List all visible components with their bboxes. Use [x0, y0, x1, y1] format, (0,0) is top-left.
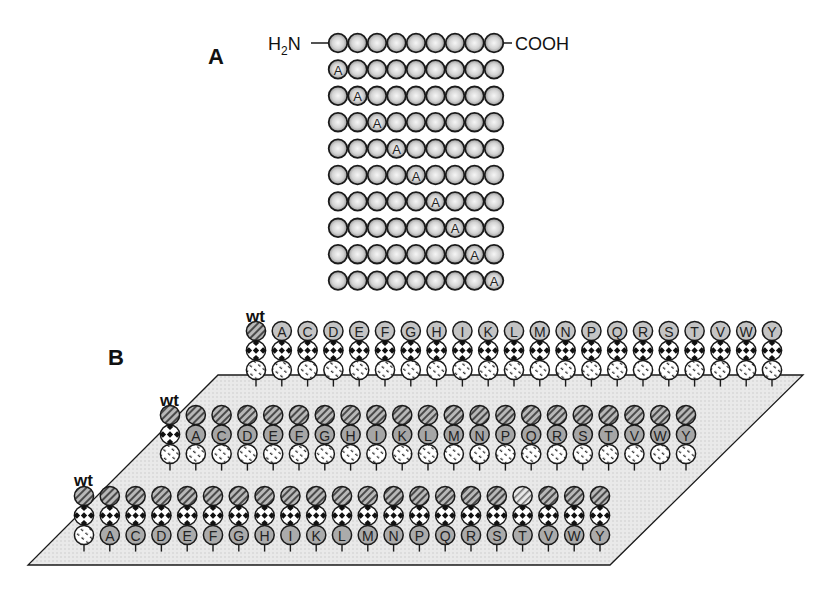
amino-acid-letter: L — [338, 528, 346, 544]
alanine-scan-peptide: A — [329, 192, 504, 211]
residue-bead — [485, 166, 504, 185]
peptide-G: G — [401, 321, 422, 386]
residue-bead — [329, 87, 348, 106]
c-terminus-label: COOH — [515, 34, 569, 54]
hatched-bead — [341, 405, 360, 424]
peptide-C: C — [212, 405, 231, 470]
hatched-bead — [461, 486, 480, 505]
hatched-bead — [246, 321, 265, 340]
amino-acid-letter: L — [424, 428, 432, 444]
residue-bead — [368, 245, 387, 264]
sparse-hatched-bead — [264, 444, 283, 463]
amino-acid-letter: D — [242, 428, 252, 444]
sparse-hatched-bead — [74, 525, 93, 544]
peptide-K: K — [306, 486, 327, 551]
residue-bead — [446, 34, 465, 53]
peptide-I: I — [367, 405, 386, 470]
hatched-bead — [418, 405, 437, 424]
residue-bead — [407, 60, 426, 79]
amino-acid-letter: G — [405, 324, 416, 340]
residue-bead — [465, 60, 484, 79]
peptide-T: T — [599, 405, 618, 470]
hatched-bead — [384, 486, 403, 505]
sparse-hatched-bead — [341, 444, 360, 463]
alanine-letter: A — [451, 221, 460, 236]
amino-acid-letter: E — [183, 528, 192, 544]
residue-bead — [426, 87, 445, 106]
amino-acid-letter: K — [484, 324, 494, 340]
peptide-T: T — [512, 486, 533, 551]
sparse-hatched-bead — [444, 444, 463, 463]
residue-bead — [348, 245, 367, 264]
residue-bead — [387, 271, 406, 290]
peptide-R: R — [633, 321, 654, 386]
alanine-scan-peptide: A — [329, 139, 504, 158]
residue-bead — [348, 34, 367, 53]
sparse-hatched-bead — [401, 360, 420, 379]
peptide-N: N — [383, 486, 404, 551]
residue-bead — [348, 219, 367, 238]
hatched-bead — [444, 405, 463, 424]
sparse-hatched-bead — [633, 360, 652, 379]
hatched-bead — [573, 405, 592, 424]
residue-bead — [426, 34, 445, 53]
peptide-F: F — [203, 486, 224, 551]
sparse-hatched-bead — [272, 360, 291, 379]
residue-bead — [368, 60, 387, 79]
residue-bead — [368, 271, 387, 290]
peptide-E: E — [177, 486, 198, 551]
peptide-C: C — [297, 321, 318, 386]
peptide-K: K — [393, 405, 412, 470]
sparse-hatched-bead — [393, 444, 412, 463]
panel-b-label: B — [108, 345, 124, 370]
residue-bead — [368, 87, 387, 106]
peptide-A: A — [186, 405, 205, 470]
sparse-hatched-bead — [556, 360, 575, 379]
amino-acid-letter: V — [630, 428, 640, 444]
amino-acid-letter: E — [269, 428, 278, 444]
residue-bead — [485, 113, 504, 132]
hatched-bead — [436, 486, 455, 505]
hatched-bead — [487, 486, 506, 505]
hatched-bead — [264, 405, 283, 424]
amino-acid-letter: H — [346, 428, 356, 444]
amino-acid-letter: A — [277, 324, 287, 340]
peptide-S: S — [487, 486, 508, 551]
residue-bead — [407, 87, 426, 106]
amino-acid-letter: W — [568, 528, 582, 544]
peptide-W: W — [736, 321, 757, 386]
sparse-hatched-bead — [599, 444, 618, 463]
amino-acid-letter: E — [355, 324, 364, 340]
peptide-G: G — [315, 405, 334, 470]
hatched-bead — [625, 405, 644, 424]
peptide-H: H — [341, 405, 360, 470]
alanine-letter: A — [470, 248, 479, 263]
sparse-hatched-bead — [470, 444, 489, 463]
sparse-hatched-bead — [453, 360, 472, 379]
peptide-P: P — [581, 321, 602, 386]
residue-bead — [465, 166, 484, 185]
peptide-E: E — [349, 321, 370, 386]
peptide-D: D — [151, 486, 172, 551]
hatched-bead — [186, 405, 205, 424]
sparse-hatched-bead — [685, 360, 704, 379]
sparse-hatched-bead — [547, 444, 566, 463]
alanine-scan-peptide: A — [329, 166, 504, 185]
alanine-letter: A — [353, 89, 362, 104]
amino-acid-letter: S — [578, 428, 587, 444]
sparse-hatched-bead — [367, 444, 386, 463]
amino-acid-letter: C — [217, 428, 227, 444]
hatched-bead — [315, 405, 334, 424]
sparse-hatched-bead — [289, 444, 308, 463]
residue-bead — [407, 245, 426, 264]
alanine-letter: A — [490, 274, 499, 289]
amino-acid-letter: P — [415, 528, 424, 544]
hatched-bead — [152, 486, 171, 505]
peptide-R: R — [547, 405, 566, 470]
amino-acid-letter: L — [510, 324, 518, 340]
residue-bead — [465, 87, 484, 106]
sparse-hatched-bead — [427, 360, 446, 379]
peptide-M: M — [530, 321, 551, 386]
hatched-bead — [203, 486, 222, 505]
wild-type-peptide — [329, 34, 504, 53]
